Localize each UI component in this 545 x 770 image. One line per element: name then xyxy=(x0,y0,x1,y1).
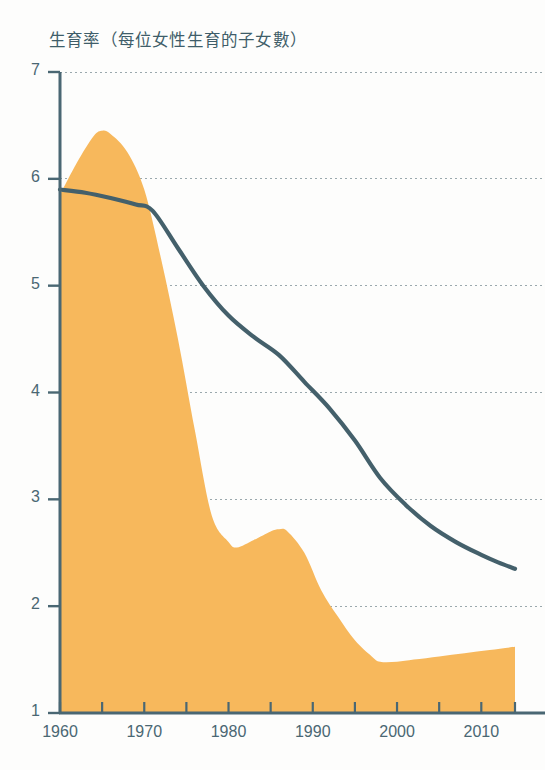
y-tick-label-5: 5 xyxy=(14,275,40,293)
x-tick-label-1970: 1970 xyxy=(109,723,179,741)
y-tick-label-6: 6 xyxy=(14,168,40,186)
fertility-rate-chart: 生育率（每位女性生育的子女數） 7654321 1960197019801990… xyxy=(0,0,545,770)
y-tick-label-4: 4 xyxy=(14,382,40,400)
y-tick-label-7: 7 xyxy=(14,61,40,79)
plot-area xyxy=(0,0,545,770)
x-tick-label-1960: 1960 xyxy=(25,723,95,741)
y-tick-label-1: 1 xyxy=(14,702,40,720)
x-tick-label-1990: 1990 xyxy=(278,723,348,741)
y-tick-label-2: 2 xyxy=(14,595,40,613)
x-tick-label-2010: 2010 xyxy=(446,723,516,741)
area-series-shape xyxy=(60,131,515,713)
x-tick-label-2000: 2000 xyxy=(362,723,432,741)
x-tick-label-1980: 1980 xyxy=(194,723,264,741)
y-tick-label-3: 3 xyxy=(14,488,40,506)
